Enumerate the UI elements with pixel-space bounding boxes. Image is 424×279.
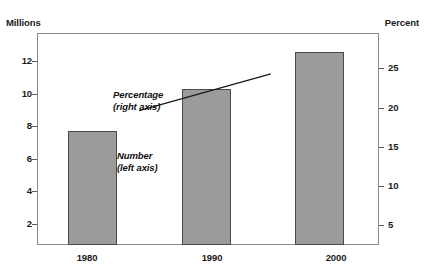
annotation-percentage-line2: (right axis) [113,101,163,113]
annotation-percentage-line1: Percentage [113,89,163,100]
x-tick-label-1990: 1990 [187,252,237,263]
left-tick-mark-4 [32,191,37,192]
bar-1990 [182,89,231,245]
left-tick-mark-8 [32,126,37,127]
right-tick-mark-25 [379,68,384,69]
right-tick-label-5: 5 [388,220,393,230]
x-tick-label-1980: 1980 [62,252,112,263]
right-tick-label-15: 15 [388,142,398,152]
annotation-number: Number (left axis) [117,150,158,174]
right-tick-mark-20 [379,108,384,109]
right-axis-unit-label: Percent [385,17,419,28]
left-tick-mark-10 [32,94,37,95]
left-tick-label-8: 8 [27,121,32,131]
left-tick-label-12: 12 [22,56,32,66]
right-tick-label-25: 25 [388,63,398,73]
left-tick-label-4: 4 [27,186,32,196]
bar-2000 [295,52,344,245]
annotation-percentage: Percentage (right axis) [113,89,163,113]
right-tick-label-10: 10 [388,181,398,191]
right-tick-label-20: 20 [388,103,398,113]
x-tick-label-2000: 2000 [311,252,361,263]
annotation-number-line1: Number [117,150,152,161]
left-tick-mark-2 [32,224,37,225]
bar-1980 [68,131,117,245]
annotation-number-line2: (left axis) [117,162,158,174]
right-tick-mark-10 [379,186,384,187]
left-tick-label-6: 6 [27,154,32,164]
left-tick-label-2: 2 [27,219,32,229]
left-tick-mark-12 [32,61,37,62]
right-tick-mark-5 [379,225,384,226]
left-tick-mark-6 [32,159,37,160]
right-tick-mark-15 [379,147,384,148]
left-tick-label-10: 10 [22,89,32,99]
left-axis-unit-label: Millions [6,17,41,28]
